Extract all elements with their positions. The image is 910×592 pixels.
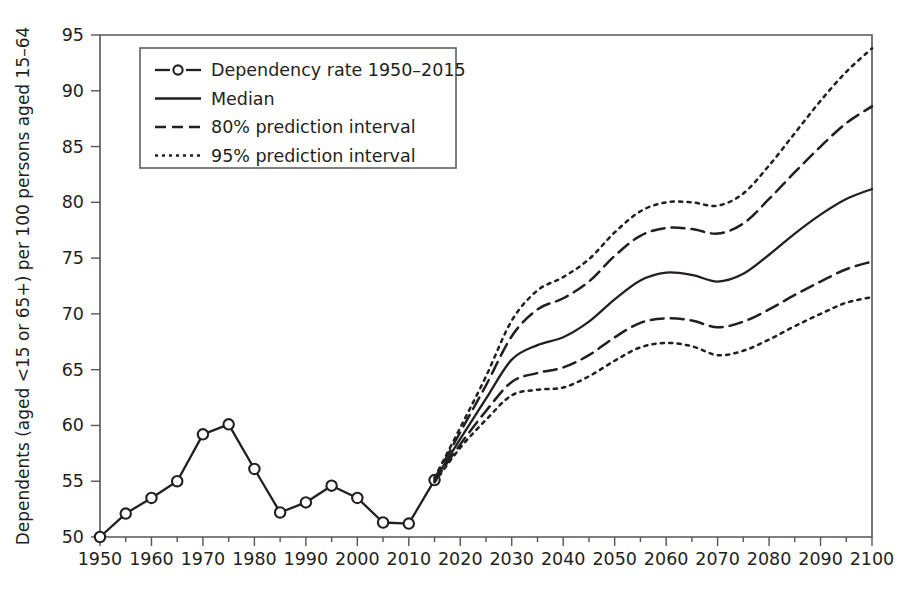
y-axis-title-group: Dependents (aged <15 or 65+) per 100 per…	[13, 27, 33, 546]
data-point-marker	[326, 480, 336, 490]
y-tick-label: 80	[62, 192, 84, 212]
data-point-marker	[121, 508, 131, 518]
data-point-marker	[301, 497, 311, 507]
x-tick-label: 2090	[798, 549, 843, 569]
y-tick-label: 65	[62, 360, 84, 380]
x-tick-label: 2010	[387, 549, 432, 569]
legend-item-label: Dependency rate 1950–2015	[211, 60, 466, 80]
dependency-ratio-projection-chart: Dependents (aged <15 or 65+) per 100 per…	[0, 0, 910, 592]
x-tick-label: 1970	[181, 549, 226, 569]
x-tick-label: 1980	[232, 549, 277, 569]
data-point-marker	[404, 518, 414, 528]
y-tick-label: 55	[62, 471, 84, 491]
data-point-marker	[172, 476, 182, 486]
x-tick-label: 1960	[129, 549, 174, 569]
x-tick-label: 1990	[284, 549, 329, 569]
x-tick-label: 2030	[489, 549, 534, 569]
legend-item-label: Median	[211, 89, 275, 109]
y-axis-title: Dependents (aged <15 or 65+) per 100 per…	[13, 27, 33, 546]
x-tick-label: 2040	[541, 549, 586, 569]
chart-legend: Dependency rate 1950–2015Median80% predi…	[140, 48, 466, 168]
data-point-marker	[95, 532, 105, 542]
chart-container: Dependents (aged <15 or 65+) per 100 per…	[0, 0, 910, 592]
y-tick-label: 85	[62, 137, 84, 157]
data-point-marker	[223, 419, 233, 429]
data-point-marker	[352, 493, 362, 503]
x-tick-label: 2000	[335, 549, 380, 569]
x-tick-label: 2100	[850, 549, 895, 569]
x-tick-label: 2070	[695, 549, 740, 569]
x-tick-label: 2060	[644, 549, 689, 569]
data-point-marker	[198, 429, 208, 439]
data-point-marker	[378, 517, 388, 527]
x-tick-label: 2050	[592, 549, 637, 569]
legend-item-label: 80% prediction interval	[211, 117, 416, 137]
y-tick-label: 60	[62, 415, 84, 435]
data-point-marker	[146, 493, 156, 503]
x-tick-label: 2020	[438, 549, 483, 569]
y-tick-label: 90	[62, 81, 84, 101]
data-point-marker	[275, 507, 285, 517]
x-tick-label: 1950	[78, 549, 123, 569]
y-tick-label: 75	[62, 248, 84, 268]
y-tick-label: 50	[62, 527, 84, 547]
legend-circle-marker	[173, 65, 182, 74]
legend-item-label: 95% prediction interval	[211, 146, 416, 166]
data-point-marker	[249, 464, 259, 474]
y-tick-label: 95	[62, 25, 84, 45]
x-tick-label: 2080	[747, 549, 792, 569]
y-tick-label: 70	[62, 304, 84, 324]
